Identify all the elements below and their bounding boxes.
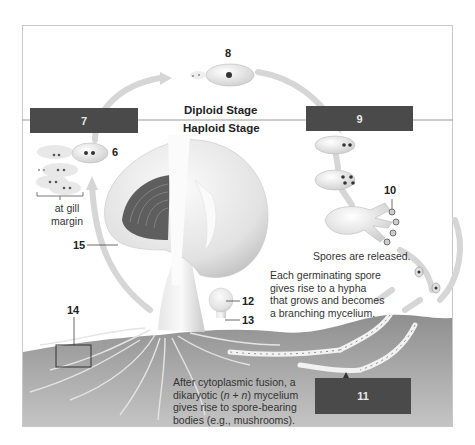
haploid-stage-label: Haploid Stage [183,122,260,134]
callout-8: 8 [225,47,231,59]
diploid-stage-label: Diploid Stage [184,104,257,116]
basidium-with-spores [325,199,399,245]
dikaryotic-cell-6 [36,143,108,195]
small-mushroom-button [209,288,233,318]
callout-15: 15 [73,239,85,251]
callout-14: 14 [67,304,79,316]
answer-box-11[interactable]: 11 [315,378,411,414]
answer-box-9[interactable]: 9 [306,106,413,131]
germinating-spore-caption: Each germinating spore gives rise to a h… [270,269,384,319]
gill-margin-caption: at gill margin [47,202,87,227]
callout-10: 10 [384,184,396,196]
callout-13: 13 [242,314,254,326]
callout-6: 6 [112,146,118,158]
spores-released-caption: Spores are released. [313,250,410,263]
diploid-zygote-cell [190,64,254,86]
callout-12: 12 [242,295,254,307]
answer-box-7[interactable]: 7 [30,108,138,133]
cytoplasmic-fusion-caption: After cytoplasmic fusion, a dikaryotic (… [173,376,298,426]
